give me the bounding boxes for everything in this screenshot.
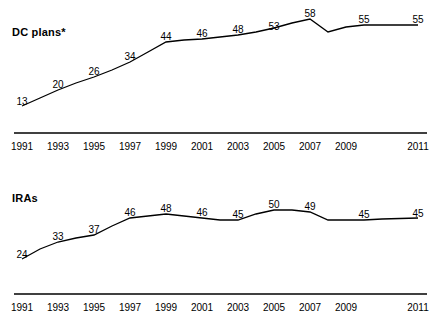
dc-value-2011: 55 [412, 14, 423, 25]
dc-tick-1997: 1997 [119, 141, 141, 152]
ira-value-1999: 48 [160, 203, 171, 214]
dc-series-line [22, 19, 418, 106]
ira-value-2005: 50 [268, 199, 279, 210]
ira-value-2001: 46 [196, 207, 207, 218]
ira-value-2011: 45 [412, 208, 423, 219]
ira-tick-2007: 2007 [299, 302, 321, 313]
ira-tick-1995: 1995 [83, 302, 105, 313]
dc-value-2007: 58 [304, 8, 315, 19]
dc-value-1993: 20 [52, 79, 63, 90]
ira-value-2003: 45 [232, 209, 243, 220]
chart-dc-plans: DC plans* 1991 1993 1995 1997 1999 2001 … [0, 0, 441, 160]
ira-tick-2001: 2001 [191, 302, 213, 313]
dc-tick-1999: 1999 [155, 141, 177, 152]
ira-value-2009: 45 [358, 209, 369, 220]
dc-tick-2005: 2005 [263, 141, 285, 152]
chart-ira-x-axis-labels: 1991 1993 1995 1997 1999 2001 2003 2005 … [0, 302, 441, 316]
dc-value-1991: 13 [16, 96, 27, 107]
chart-dc-plot [0, 0, 441, 160]
ira-tick-2009: 2009 [335, 302, 357, 313]
ira-tick-1999: 1999 [155, 302, 177, 313]
ira-value-1995: 37 [88, 224, 99, 235]
dc-tick-2009: 2009 [335, 141, 357, 152]
dc-value-2005: 53 [268, 21, 279, 32]
chart-iras: IRAs 1991 1993 1995 1997 1999 2001 2003 … [0, 160, 441, 322]
ira-value-1997: 46 [124, 207, 135, 218]
dc-value-2003: 48 [232, 24, 243, 35]
dc-value-1995: 26 [88, 66, 99, 77]
ira-tick-1997: 1997 [119, 302, 141, 313]
ira-value-1991: 24 [16, 249, 27, 260]
dc-tick-1995: 1995 [83, 141, 105, 152]
dc-value-1999: 44 [160, 31, 171, 42]
ira-tick-1991: 1991 [11, 302, 33, 313]
ira-value-2007: 49 [304, 201, 315, 212]
dc-value-2001: 46 [196, 28, 207, 39]
dc-value-2009: 55 [358, 14, 369, 25]
chart-ira-plot [0, 160, 441, 322]
dc-tick-1993: 1993 [47, 141, 69, 152]
ira-tick-2003: 2003 [227, 302, 249, 313]
ira-tick-2005: 2005 [263, 302, 285, 313]
dc-tick-1991: 1991 [11, 141, 33, 152]
ira-tick-2011: 2011 [407, 302, 429, 313]
ira-value-1993: 33 [52, 231, 63, 242]
dc-tick-2007: 2007 [299, 141, 321, 152]
chart-dc-x-axis-labels: 1991 1993 1995 1997 1999 2001 2003 2005 … [0, 141, 441, 155]
dc-tick-2003: 2003 [227, 141, 249, 152]
dc-tick-2011: 2011 [407, 141, 429, 152]
dc-tick-2001: 2001 [191, 141, 213, 152]
ira-tick-1993: 1993 [47, 302, 69, 313]
dc-value-1997: 34 [124, 51, 135, 62]
